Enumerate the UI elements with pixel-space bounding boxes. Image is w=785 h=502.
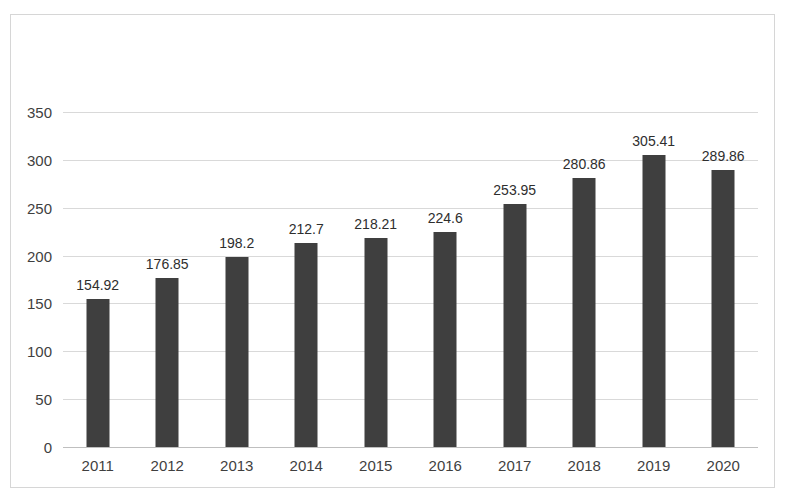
bar-value-label-2014: 212.7: [289, 222, 324, 236]
bar-chart-figure: 050100150200250300350 154.92176.85198.22…: [0, 0, 785, 502]
y-tick-label-0: 0: [44, 440, 52, 455]
x-tick-label-2018: 2018: [568, 458, 601, 473]
x-tick-label-2014: 2014: [290, 458, 323, 473]
bar-2014: [295, 243, 318, 447]
x-tick-label-2011: 2011: [82, 458, 114, 473]
bar-value-label-2016: 224.6: [428, 211, 463, 225]
x-tick-label-2013: 2013: [220, 458, 253, 473]
x-tick-label-2019: 2019: [637, 458, 670, 473]
y-tick-label-250: 250: [27, 201, 52, 216]
bar-value-label-2018: 280.86: [563, 157, 606, 171]
bar-2019: [642, 155, 665, 447]
bar-2016: [434, 232, 457, 447]
bar-value-label-2013: 198.2: [219, 236, 254, 250]
x-tick-label-2020: 2020: [707, 458, 740, 473]
gridline-0: [63, 447, 758, 448]
gridline-350: [63, 112, 758, 113]
plot-area: 154.92176.85198.2212.7218.21224.6253.952…: [63, 112, 758, 447]
y-tick-label-50: 50: [35, 392, 52, 407]
y-tick-label-300: 300: [27, 153, 52, 168]
x-tick-label-2015: 2015: [359, 458, 392, 473]
bar-2011: [86, 299, 109, 447]
y-tick-label-150: 150: [27, 296, 52, 311]
bar-value-label-2020: 289.86: [702, 149, 745, 163]
y-tick-label-100: 100: [27, 344, 52, 359]
bar-2018: [573, 178, 596, 447]
bar-value-label-2012: 176.85: [146, 257, 189, 271]
bar-value-label-2017: 253.95: [493, 183, 536, 197]
x-tick-label-2012: 2012: [151, 458, 184, 473]
x-tick-label-2016: 2016: [429, 458, 462, 473]
bar-value-label-2015: 218.21: [354, 217, 397, 231]
x-tick-label-2017: 2017: [498, 458, 531, 473]
x-axis-tick-labels: 2011201220132014201520162017201820192020: [0, 458, 785, 482]
y-tick-label-350: 350: [27, 105, 52, 120]
bar-value-label-2019: 305.41: [632, 134, 675, 148]
bar-2013: [225, 257, 248, 447]
bar-value-label-2011: 154.92: [76, 278, 119, 292]
bar-2017: [503, 204, 526, 447]
y-tick-label-200: 200: [27, 249, 52, 264]
bar-2020: [712, 170, 735, 447]
bar-2012: [156, 278, 179, 447]
bar-2015: [364, 238, 387, 447]
y-axis-tick-labels: 050100150200250300350: [0, 0, 52, 502]
